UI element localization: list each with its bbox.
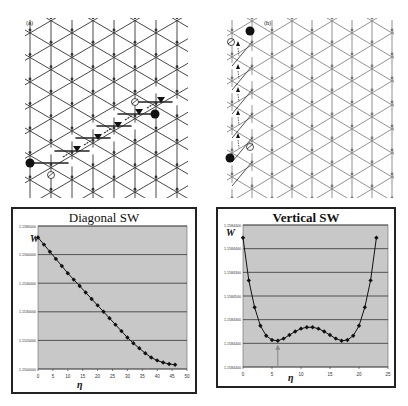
- panel-b-label: (b): [264, 20, 271, 26]
- svg-text:1.1584400: 1.1584400: [224, 247, 241, 251]
- svg-text:1.1580000: 1.1580000: [19, 225, 36, 229]
- svg-text:1.1584300: 1.1584300: [224, 271, 241, 275]
- svg-text:10: 10: [298, 372, 304, 377]
- vertical-sw-chart: Vertical SW W η 1.15844001.15844001.1584…: [216, 207, 396, 388]
- svg-text:1.1584300: 1.1584300: [224, 318, 241, 322]
- svg-text:50: 50: [184, 374, 190, 379]
- svg-text:20: 20: [95, 374, 101, 379]
- svg-text:1.1584400: 1.1584400: [224, 224, 241, 228]
- triangular-lattice-a: [0, 0, 204, 200]
- svg-text:1.1530000: 1.1530000: [19, 310, 36, 314]
- diagonal-sw-chart: Diagonal SW W η 1.15800001.15600001.1540…: [11, 207, 197, 394]
- svg-text:5: 5: [52, 374, 55, 379]
- svg-text:1.1500000: 1.1500000: [19, 368, 36, 372]
- triangular-lattice-b: [204, 0, 408, 200]
- vertical-sw-plot: 1.15844001.15844001.15843001.15845001.15…: [218, 209, 394, 386]
- svg-text:1.1584400: 1.1584400: [224, 366, 241, 370]
- svg-text:1.1584400: 1.1584400: [224, 342, 241, 346]
- svg-text:0: 0: [242, 372, 245, 377]
- svg-text:25: 25: [385, 372, 391, 377]
- lattice-panel-b: (b): [204, 0, 408, 200]
- lattice-panel-a: (a): [0, 0, 204, 200]
- svg-text:15: 15: [80, 374, 86, 379]
- svg-text:20: 20: [356, 372, 362, 377]
- panel-a-label: (a): [26, 20, 33, 26]
- svg-text:0: 0: [37, 374, 40, 379]
- svg-text:35: 35: [140, 374, 146, 379]
- svg-text:10: 10: [65, 374, 71, 379]
- svg-text:1.1540000: 1.1540000: [19, 282, 36, 286]
- svg-text:1.1560000: 1.1560000: [19, 253, 36, 257]
- svg-text:1.1520000: 1.1520000: [19, 339, 36, 343]
- svg-text:40: 40: [155, 374, 161, 379]
- svg-text:30: 30: [125, 374, 131, 379]
- diagonal-sw-plot: 1.15800001.15600001.15400001.15300001.15…: [13, 209, 195, 392]
- svg-text:5: 5: [271, 372, 274, 377]
- svg-text:15: 15: [327, 372, 333, 377]
- svg-text:1.1584500: 1.1584500: [224, 295, 241, 299]
- svg-text:45: 45: [170, 374, 176, 379]
- svg-text:25: 25: [110, 374, 116, 379]
